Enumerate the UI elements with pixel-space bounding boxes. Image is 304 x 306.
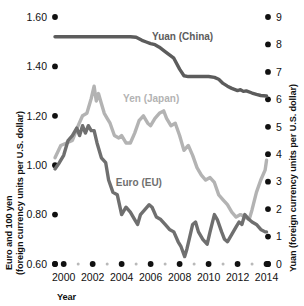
x-minor-tick-dot <box>251 263 254 266</box>
y-right-tick-dot <box>265 151 271 157</box>
series-label-yen-japan: Yen (Japan) <box>123 93 179 104</box>
x-axis-tick-label: 2010 <box>197 271 221 283</box>
y-left-tick-dot <box>52 14 58 20</box>
y-left-tick-label: 1.60 <box>27 11 48 23</box>
y-right-tick-label: 7 <box>276 66 282 78</box>
x-minor-tick-dot <box>135 263 138 266</box>
y-right-tick-label: 8 <box>276 38 282 50</box>
x-major-tick-dot <box>119 261 125 267</box>
x-axis-tick-label: 2008 <box>168 271 192 283</box>
y-left-tick-dot <box>52 64 58 70</box>
y-left-tick-label: 1.00 <box>27 159 48 171</box>
y-right-tick-dot <box>265 42 271 48</box>
series-label-euro-eu: Euro (EU) <box>116 177 162 188</box>
y-right-tick-label: 3 <box>276 175 282 187</box>
x-axis-tick-label: 2002 <box>81 271 105 283</box>
left-axis-title-line1: Euro and 100 yen <box>4 195 14 270</box>
y-right-tick-label: 9 <box>276 11 282 23</box>
x-major-tick-dot <box>177 261 183 267</box>
x-major-tick-dot <box>206 261 212 267</box>
y-left-tick-dot <box>52 113 58 119</box>
y-right-tick-label: 2 <box>276 203 282 215</box>
y-right-tick-dot <box>265 124 271 130</box>
right-axis-title: Yuan (foreign currency units per U.S. do… <box>288 84 298 272</box>
currency-exchange-rate-chart: Euro and 100 yen (foreign currency units… <box>0 0 304 306</box>
y-left-tick-label: 1.40 <box>27 60 48 72</box>
x-major-tick-dot <box>148 261 154 267</box>
y-right-tick-label: 0 <box>276 258 282 270</box>
y-left-tick-dot <box>52 212 58 218</box>
y-left-tick-label: 0.60 <box>27 258 48 270</box>
x-minor-tick-dot <box>164 263 167 266</box>
y-left-tick-label: 1.20 <box>27 110 48 122</box>
x-edge-tick-dot <box>52 261 58 267</box>
y-right-tick-dot <box>265 206 271 212</box>
x-axis-tick-label: 2014 <box>255 271 279 283</box>
y-right-tick-label: 6 <box>276 93 282 105</box>
x-major-tick-dot <box>264 261 270 267</box>
x-minor-tick-dot <box>77 263 80 266</box>
x-axis-tick-label: 2000 <box>52 271 76 283</box>
left-axis-title-line2: (foreign currency units per U.S. dollar) <box>15 111 25 275</box>
x-axis-tick-label: 2004 <box>110 271 134 283</box>
y-right-tick-label: 1 <box>276 230 282 242</box>
y-right-tick-dot <box>265 14 271 20</box>
y-right-tick-dot <box>265 234 271 240</box>
x-minor-tick-dot <box>222 263 225 266</box>
x-minor-tick-dot <box>106 263 109 266</box>
x-axis-title: Year <box>57 292 77 302</box>
y-right-tick-dot <box>265 179 271 185</box>
series-label-yuan-china: Yuan (China) <box>152 31 213 42</box>
x-minor-tick-dot <box>193 263 196 266</box>
x-axis-tick-label: 2012 <box>226 271 250 283</box>
x-major-tick-dot <box>61 261 67 267</box>
right-axis-title-text: Yuan (foreign currency units per U.S. do… <box>288 84 298 272</box>
y-right-tick-label: 4 <box>276 148 282 160</box>
y-right-tick-dot <box>265 69 271 75</box>
x-axis-tick-label: 2006 <box>139 271 163 283</box>
y-right-tick-label: 5 <box>276 121 282 133</box>
y-left-tick-label: 0.80 <box>27 208 48 220</box>
x-major-tick-dot <box>90 261 96 267</box>
x-major-tick-dot <box>235 261 241 267</box>
